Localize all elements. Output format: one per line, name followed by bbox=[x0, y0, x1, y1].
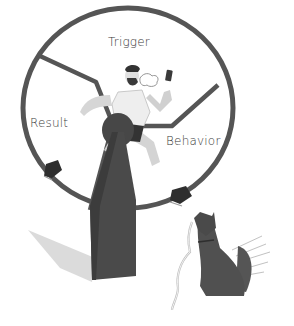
shoe-left bbox=[44, 160, 62, 180]
stand-shadow bbox=[28, 230, 95, 282]
result-label: Result bbox=[30, 116, 68, 130]
behavior-label: Behavior bbox=[166, 134, 221, 148]
dog bbox=[172, 212, 270, 310]
habit-loop-illustration: Trigger Result Behavior bbox=[0, 0, 294, 326]
trigger-label: Trigger bbox=[108, 35, 150, 49]
wheel-stand bbox=[90, 132, 136, 280]
